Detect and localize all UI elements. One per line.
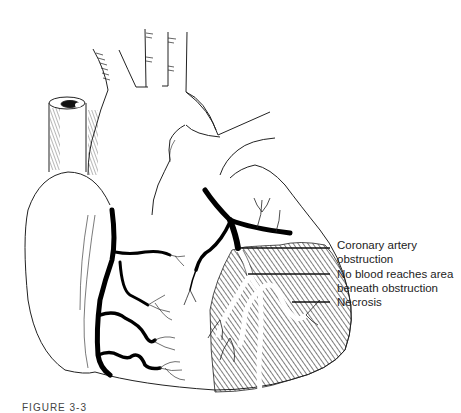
aorta-pulmonary [88,92,275,215]
vena-cava [49,97,86,172]
necrosis-region [210,243,351,393]
label-line: Necrosis [337,295,382,309]
label-necrosis: Necrosis [337,295,382,309]
label-coronary-obstruction: Coronary artery obstruction [337,238,417,266]
label-no-blood: No blood reaches area beneath obstructio… [337,267,453,295]
figure-caption: FIGURE 3-3 [22,402,87,413]
great-vessels [93,29,216,130]
label-line: obstruction [337,252,417,266]
right-coronary-branches [148,255,185,380]
right-coronary-artery [97,210,170,375]
label-line: Coronary artery [337,238,417,252]
label-line: No blood reaches area [337,267,453,281]
label-line: beneath obstruction [337,281,453,295]
